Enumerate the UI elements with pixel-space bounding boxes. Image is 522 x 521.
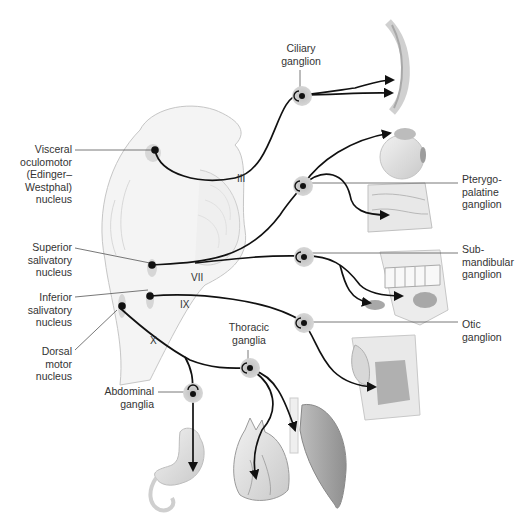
thoracic-ganglion-marker xyxy=(240,358,260,378)
label-line: nucleus xyxy=(0,370,72,383)
label-line: Visceral xyxy=(0,143,72,156)
label-line: nucleus xyxy=(0,316,72,329)
ear-parotid-illustration xyxy=(352,335,420,420)
label-superior-salivatory-nucleus: Superior salivatory nucleus xyxy=(0,241,72,279)
eye-lens-illustration xyxy=(388,22,406,112)
eyeball-illustration xyxy=(380,128,426,179)
label-line: ganglia xyxy=(218,334,280,347)
label-inferior-salivatory-nucleus: Inferior salivatory nucleus xyxy=(0,291,72,329)
label-otic-ganglion: Otic ganglion xyxy=(462,318,522,343)
label-visceral-oculomotor-nucleus: Visceral oculomotor (Edinger– Westphal) … xyxy=(0,143,72,206)
label-line: palatine xyxy=(462,186,522,199)
stomach-illustration xyxy=(150,428,204,510)
label-line: ganglion xyxy=(270,55,332,68)
label-line: salivatory xyxy=(0,304,72,317)
otic-ganglion-marker xyxy=(294,313,314,333)
nerve-label-IX: IX xyxy=(180,299,189,310)
label-line: Westphal) xyxy=(0,181,72,194)
label-pterygopalatine-ganglion: Pterygo- palatine ganglion xyxy=(462,173,522,211)
label-line: ganglion xyxy=(462,198,522,211)
label-line: ganglion xyxy=(462,331,522,344)
label-line: ganglion xyxy=(462,268,522,281)
nerve-label-III: III xyxy=(237,173,245,184)
label-ciliary-ganglion: Ciliary ganglion xyxy=(270,42,332,67)
label-line: Inferior xyxy=(0,291,72,304)
nerve-label-X: X xyxy=(150,335,157,346)
label-line: salivatory xyxy=(0,254,72,267)
label-line: Sub- xyxy=(462,243,522,256)
label-line: motor xyxy=(0,358,72,371)
label-line: Dorsal xyxy=(0,345,72,358)
label-line: (Edinger– xyxy=(0,168,72,181)
label-line: Abdominal xyxy=(90,385,154,398)
diagram-stage: Visceral oculomotor (Edinger– Westphal) … xyxy=(0,0,522,521)
jaw-teeth-illustration xyxy=(365,250,448,325)
label-line: mandibular xyxy=(462,256,522,269)
abdominal-ganglion-marker xyxy=(183,383,203,403)
submandibular-ganglion-marker xyxy=(294,247,314,267)
label-dorsal-motor-nucleus: Dorsal motor nucleus xyxy=(0,345,72,383)
diagram-canvas xyxy=(0,0,522,521)
label-abdominal-ganglia: Abdominal ganglia xyxy=(90,385,154,410)
label-submandibular-ganglion: Sub- mandibular ganglion xyxy=(462,243,522,281)
label-line: Superior xyxy=(0,241,72,254)
label-line: oculomotor xyxy=(0,156,72,169)
label-line: ganglia xyxy=(90,398,154,411)
label-line: Ciliary xyxy=(270,42,332,55)
lung-illustration xyxy=(290,398,346,508)
label-line: nucleus xyxy=(0,266,72,279)
pterygopalatine-ganglion-marker xyxy=(293,176,313,196)
nasal-cavity-illustration xyxy=(368,183,432,232)
label-line: nucleus xyxy=(0,193,72,206)
nerve-label-VII: VII xyxy=(191,272,203,283)
label-line: Pterygo- xyxy=(462,173,522,186)
label-line: Otic xyxy=(462,318,522,331)
label-line: Thoracic xyxy=(218,321,280,334)
label-thoracic-ganglia: Thoracic ganglia xyxy=(218,321,280,346)
ciliary-ganglion-marker xyxy=(292,86,312,106)
